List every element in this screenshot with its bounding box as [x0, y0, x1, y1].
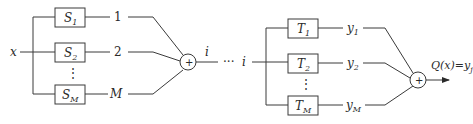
stage2-ellipsis: ⋮: [300, 77, 312, 91]
block-t2: T2: [288, 54, 318, 73]
sm-output-label: M: [109, 87, 123, 101]
block-s2: S2: [55, 43, 85, 62]
input-label-x: x: [10, 45, 17, 59]
y2-label: y2: [346, 56, 359, 72]
s1-output-label: 1: [114, 10, 122, 24]
y1-label: y1: [346, 21, 359, 37]
s2-output-label: 2: [114, 45, 122, 59]
block-s1: S1: [55, 8, 85, 27]
ym-label: yM: [345, 98, 362, 114]
stage1-ellipsis: ⋮: [67, 66, 79, 80]
sm-to-sum-line: [128, 70, 183, 94]
block-t1: T1: [288, 19, 318, 38]
sum-junction-1: +: [180, 54, 196, 70]
connector: ··· i: [223, 55, 246, 69]
ym-to-sum-line: [365, 86, 413, 105]
final-output-label: Q(x)=yj: [431, 59, 473, 74]
two-stage-block-diagram: x S1 1 S2 2 ⋮ SM M +: [0, 0, 473, 124]
y1-to-sum-line: [363, 28, 413, 73]
connector-label-i: i: [242, 55, 246, 69]
block-tm: TM: [288, 96, 318, 115]
y2-to-sum-line: [363, 63, 410, 78]
svg-text:+: +: [415, 75, 423, 86]
stage1: x S1 1 S2 2 ⋮ SM M +: [10, 8, 218, 104]
connector-dots: ···: [223, 55, 234, 69]
s2-to-sum-line: [128, 52, 180, 61]
sum-junction-2: +: [410, 72, 426, 88]
sum1-output-label: i: [205, 45, 209, 59]
block-sm: SM: [55, 85, 85, 104]
stage2: T1 y1 T2 y2 ⋮ TM yM + Q(x)=yj: [252, 19, 473, 115]
svg-text:+: +: [185, 57, 193, 68]
s1-to-sum-line: [128, 17, 183, 55]
